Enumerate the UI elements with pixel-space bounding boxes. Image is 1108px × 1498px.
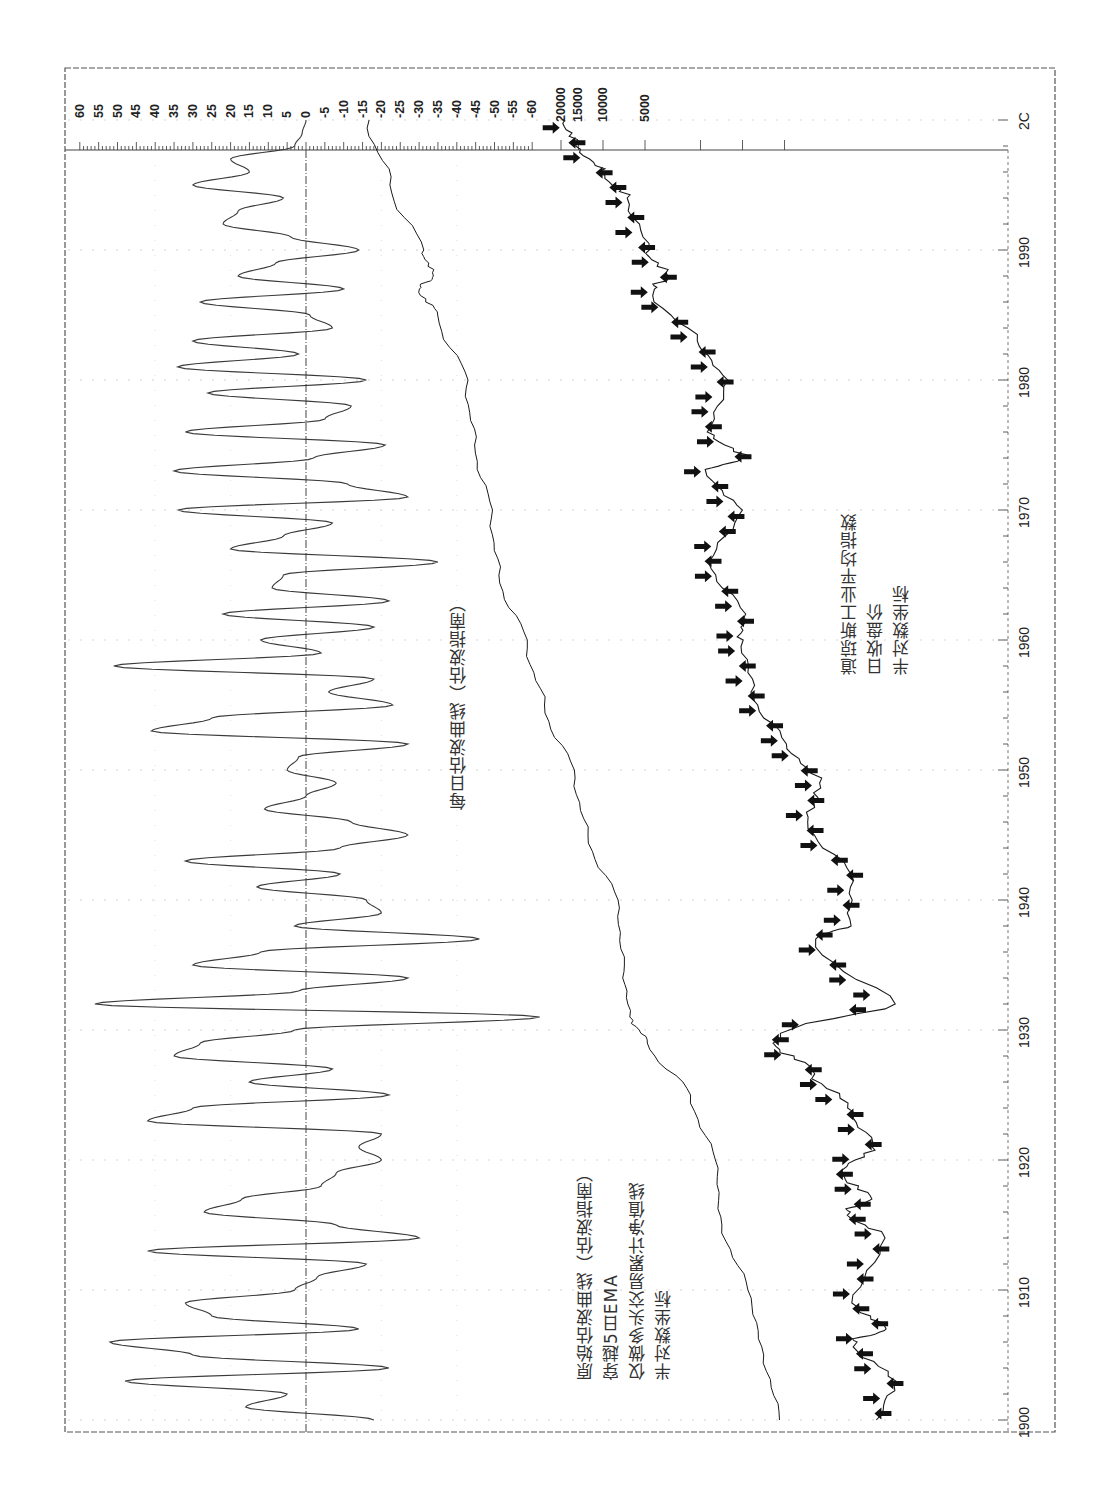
sell-arrow-icon xyxy=(609,182,626,194)
equity-annotation: 原始估波曲线（估波指南） 穿越5日EMA 仅做多头交易累计净值线 半对数坐标 xyxy=(572,1025,676,1380)
chart-frame xyxy=(65,68,1055,1432)
year-tick-label: 1990 xyxy=(1016,237,1032,268)
buy-arrow-icon xyxy=(833,1288,850,1300)
buy-arrow-icon xyxy=(632,256,649,268)
osc-tick-label: -25 xyxy=(393,100,407,118)
sell-arrow-icon xyxy=(748,690,765,702)
buy-arrow-icon xyxy=(706,496,723,508)
sell-arrow-icon xyxy=(721,585,738,597)
buy-arrow-icon xyxy=(761,735,778,747)
buy-arrow-icon xyxy=(543,122,560,134)
buy-arrow-icon xyxy=(670,331,687,343)
osc-tick-label: -5 xyxy=(318,107,332,118)
osc-tick-label: 25 xyxy=(205,104,219,118)
buy-arrow-icon xyxy=(835,1183,852,1195)
osc-tick-label: -45 xyxy=(469,100,483,118)
year-tick-label: 1910 xyxy=(1016,1277,1032,1308)
buy-arrow-icon xyxy=(863,1393,880,1405)
buy-arrow-icon xyxy=(606,197,623,209)
year-tick-label: 2C xyxy=(1016,112,1032,130)
sell-arrow-icon xyxy=(849,1213,866,1225)
year-tick-label: 1900 xyxy=(1016,1407,1032,1438)
buy-arrow-icon xyxy=(838,1123,855,1135)
osc-title-text: 每日估波曲线（估波指南） xyxy=(445,520,471,810)
buy-arrow-icon xyxy=(694,540,711,552)
osc-tick-label: 0 xyxy=(299,111,313,118)
rotated-chart-figure xyxy=(0,0,1108,1498)
buy-arrow-icon xyxy=(718,645,735,657)
osc-tick-label: 35 xyxy=(167,104,181,118)
osc-tick-label: 5 xyxy=(280,111,294,118)
buy-arrow-icon xyxy=(684,466,701,478)
year-tick-label: 1940 xyxy=(1016,887,1032,918)
osc-tick-label: 20 xyxy=(224,104,238,118)
equity-line3: 仅做多头交易累计净值线 xyxy=(624,1025,650,1380)
sell-arrow-icon xyxy=(843,899,860,911)
buy-arrow-icon xyxy=(832,1153,849,1165)
osc-tick-label: -10 xyxy=(337,100,351,118)
buy-arrow-icon xyxy=(786,810,803,822)
buy-arrow-icon xyxy=(716,630,733,642)
osc-tick-label: -50 xyxy=(488,100,502,118)
oscillator-line xyxy=(95,120,540,1420)
sell-arrow-icon xyxy=(704,555,721,567)
sell-arrow-icon xyxy=(846,1109,863,1121)
equity-line4: 半对数坐标 xyxy=(650,1025,676,1380)
sell-arrow-icon xyxy=(638,241,655,253)
buy-arrow-icon xyxy=(799,944,816,956)
buy-arrow-icon xyxy=(829,974,846,986)
buy-arrow-icon xyxy=(827,884,844,896)
sell-arrow-icon xyxy=(737,615,754,627)
price-tick-label: 15000 xyxy=(571,87,585,122)
buy-arrow-icon xyxy=(726,675,743,687)
buy-arrow-icon xyxy=(847,1258,864,1270)
osc-tick-label: 15 xyxy=(242,104,256,118)
sell-arrow-icon xyxy=(816,929,833,941)
sell-arrow-icon xyxy=(805,1064,822,1076)
buy-arrow-icon xyxy=(795,780,812,792)
dow-line1: 道琼斯工业平均指数 xyxy=(836,385,862,675)
osc-tick-label: 40 xyxy=(148,104,162,118)
dow-annotation: 道琼斯工业平均指数 日收盘价 半对数坐标 xyxy=(836,385,914,675)
buy-arrow-icon xyxy=(631,286,648,298)
price-tick-label: 10000 xyxy=(596,87,610,122)
sell-arrow-icon xyxy=(807,795,824,807)
osc-tick-label: 10 xyxy=(261,104,275,118)
buy-arrow-icon xyxy=(800,839,817,851)
buy-arrow-icon xyxy=(853,989,870,1001)
buy-arrow-icon xyxy=(695,570,712,582)
buy-arrow-icon xyxy=(855,1228,872,1240)
sell-arrow-icon xyxy=(807,824,824,836)
osc-tick-label: 30 xyxy=(186,104,200,118)
year-tick-label: 1930 xyxy=(1016,1017,1032,1048)
osc-tick-label: -55 xyxy=(506,100,520,118)
sell-arrow-icon xyxy=(854,1198,871,1210)
buy-arrow-icon xyxy=(739,705,756,717)
buy-arrow-icon xyxy=(715,600,732,612)
equity-line2: 穿越5日EMA xyxy=(598,1025,624,1380)
equity-line1: 原始估波曲线（估波指南） xyxy=(572,1025,598,1380)
buy-arrow-icon xyxy=(697,436,714,448)
year-tick-label: 1950 xyxy=(1016,757,1032,788)
buy-arrow-icon xyxy=(854,1363,871,1375)
osc-tick-label: -30 xyxy=(412,100,426,118)
buy-arrow-icon xyxy=(824,914,841,926)
buy-arrow-icon xyxy=(836,1333,853,1345)
osc-tick-label: 50 xyxy=(111,104,125,118)
buy-arrow-icon xyxy=(815,1094,832,1106)
buy-arrow-icon xyxy=(695,391,712,403)
osc-tick-label: -60 xyxy=(525,100,539,118)
osc-tick-label: 55 xyxy=(92,104,106,118)
sell-arrow-icon xyxy=(699,346,716,358)
price-tick-label: 5000 xyxy=(638,94,652,122)
year-tick-label: 1980 xyxy=(1016,367,1032,398)
year-tick-label: 1960 xyxy=(1016,627,1032,658)
buy-arrow-icon xyxy=(563,152,580,164)
osc-tick-label: 45 xyxy=(129,104,143,118)
price-tick-label: 20000 xyxy=(554,87,568,122)
osc-tick-label: -40 xyxy=(450,100,464,118)
year-tick-label: 1970 xyxy=(1016,497,1032,528)
oscillator-annotation: 每日估波曲线（估波指南） xyxy=(445,520,471,810)
dow-line2: 日收盘价 xyxy=(862,385,888,675)
osc-tick-label: -35 xyxy=(431,100,445,118)
